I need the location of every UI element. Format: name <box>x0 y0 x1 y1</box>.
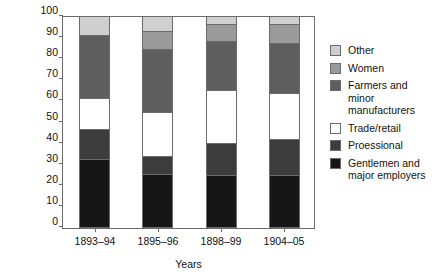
y-axis-tick-label: 40 <box>12 131 63 143</box>
y-axis-tick-label: 10 <box>12 194 63 206</box>
bar-segment[interactable] <box>79 98 110 130</box>
legend-swatch <box>330 63 341 74</box>
bar-segment[interactable] <box>142 49 173 113</box>
y-axis-tick-label: 70 <box>12 67 63 79</box>
bar-stack[interactable] <box>269 16 300 228</box>
bar-segment[interactable] <box>142 31 173 50</box>
bar-segment[interactable] <box>269 175 300 228</box>
bar-stack[interactable] <box>79 16 110 228</box>
legend-swatch <box>330 80 341 91</box>
legend-label: Proessional <box>348 139 403 152</box>
legend-label: Trade/retail <box>348 122 401 135</box>
y-axis-tick-label: 100 <box>12 4 63 16</box>
legend-item[interactable]: Farmers and minormanufacturers <box>330 79 430 117</box>
bar-segment[interactable] <box>269 139 300 176</box>
y-axis-tick-label: 80 <box>12 46 63 58</box>
bar-stack[interactable] <box>206 16 237 228</box>
legend-swatch <box>330 158 341 169</box>
legend-swatch <box>330 45 341 56</box>
legend-label: Other <box>348 44 374 57</box>
legend-label-line2: manufacturers <box>348 104 415 116</box>
bar-segment[interactable] <box>206 175 237 228</box>
bar-segment[interactable] <box>206 24 237 42</box>
chart-legend: OtherWomenFarmers and minormanufacturers… <box>330 44 430 187</box>
legend-item[interactable]: Trade/retail <box>330 122 430 135</box>
bar-segment[interactable] <box>206 41 237 91</box>
bar-segment[interactable] <box>142 174 173 228</box>
bar-segment[interactable] <box>79 35 110 99</box>
legend-item[interactable]: Gentlemen andmajor employers <box>330 157 430 182</box>
bar-segment[interactable] <box>206 90 237 144</box>
legend-item[interactable]: Women <box>330 62 430 75</box>
legend-swatch <box>330 140 341 151</box>
x-axis-title: Years <box>62 258 315 270</box>
bar-stack[interactable] <box>142 16 173 228</box>
plot-area: 01020304050607080901001893–941895–961898… <box>62 16 315 229</box>
legend-swatch <box>330 123 341 134</box>
stacked-bar-chart: Occupational distribution (%) 0102030405… <box>0 0 432 279</box>
legend-item[interactable]: Proessional <box>330 139 430 152</box>
legend-item[interactable]: Other <box>330 44 430 57</box>
bar-segment[interactable] <box>269 43 300 94</box>
legend-label: Gentlemen andmajor employers <box>348 157 426 182</box>
y-axis-tick-label: 90 <box>12 25 63 37</box>
bar-segment[interactable] <box>269 93 300 140</box>
y-axis-tick-label: 0 <box>12 215 63 227</box>
bar-segment[interactable] <box>79 129 110 161</box>
y-axis-tick-label: 60 <box>12 88 63 100</box>
legend-label-line2: major employers <box>348 169 426 181</box>
bar-segment[interactable] <box>142 112 173 157</box>
legend-label: Women <box>348 62 384 75</box>
bar-segment[interactable] <box>142 16 173 32</box>
legend-label: Farmers and minormanufacturers <box>348 79 430 117</box>
bar-segment[interactable] <box>269 24 300 44</box>
bar-segment[interactable] <box>206 143 237 177</box>
bar-segment[interactable] <box>79 16 110 36</box>
y-axis-tick-label: 50 <box>12 110 63 122</box>
bar-segment[interactable] <box>79 159 110 228</box>
y-axis-tick-label: 30 <box>12 152 63 164</box>
y-axis-tick-label: 20 <box>12 173 63 185</box>
bar-segment[interactable] <box>142 156 173 175</box>
x-axis-tick-label: 1904–05 <box>244 228 324 247</box>
